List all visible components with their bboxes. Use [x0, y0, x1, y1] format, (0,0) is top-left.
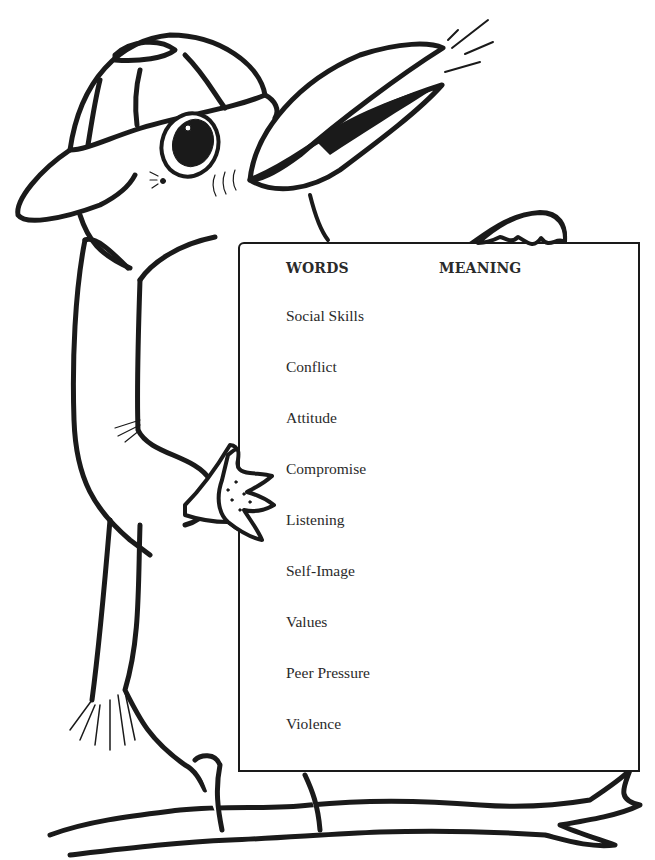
- bird-claw-right: [470, 212, 565, 244]
- bird-cap-brim: [18, 150, 135, 220]
- bird-tail-feathers: [70, 692, 135, 750]
- word-listening: Listening: [286, 511, 345, 529]
- word-values: Values: [286, 613, 327, 631]
- word-attitude: Attitude: [286, 409, 337, 427]
- word-social-skills: Social Skills: [286, 307, 364, 325]
- bird-nostril-dot: [161, 179, 166, 184]
- word-conflict: Conflict: [286, 358, 337, 376]
- vocabulary-sign: WORDS MEANING Social Skills Conflict Att…: [238, 242, 640, 772]
- words-column-header: WORDS: [286, 260, 349, 276]
- word-violence: Violence: [286, 715, 341, 733]
- beak-motion-lines: [445, 20, 493, 72]
- meaning-column-header: MEANING: [439, 260, 522, 276]
- word-compromise: Compromise: [286, 460, 366, 478]
- bird-neck-outline: [140, 237, 215, 280]
- word-peer-pressure: Peer Pressure: [286, 664, 370, 682]
- word-self-image: Self-Image: [286, 562, 355, 580]
- bird-tail: [92, 520, 205, 790]
- bird-eye-highlight: [185, 125, 191, 131]
- bird-throat: [310, 195, 328, 240]
- tree-branch: [50, 770, 640, 855]
